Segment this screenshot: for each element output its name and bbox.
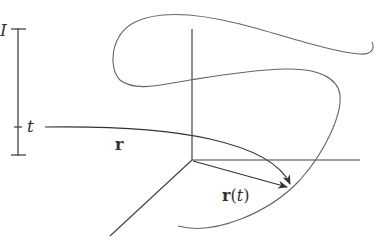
map-r-label: r xyxy=(115,135,124,154)
position-vector-arrow xyxy=(193,161,287,187)
x-axis xyxy=(110,160,192,236)
parameter-t-label: t xyxy=(27,116,34,136)
interval-i xyxy=(11,28,26,156)
position-vector-label: r(t) xyxy=(222,186,249,205)
mapping-arrow xyxy=(45,127,290,184)
interval-label: I xyxy=(0,20,7,40)
vector-function-diagram: I t r r(t) xyxy=(0,0,380,248)
